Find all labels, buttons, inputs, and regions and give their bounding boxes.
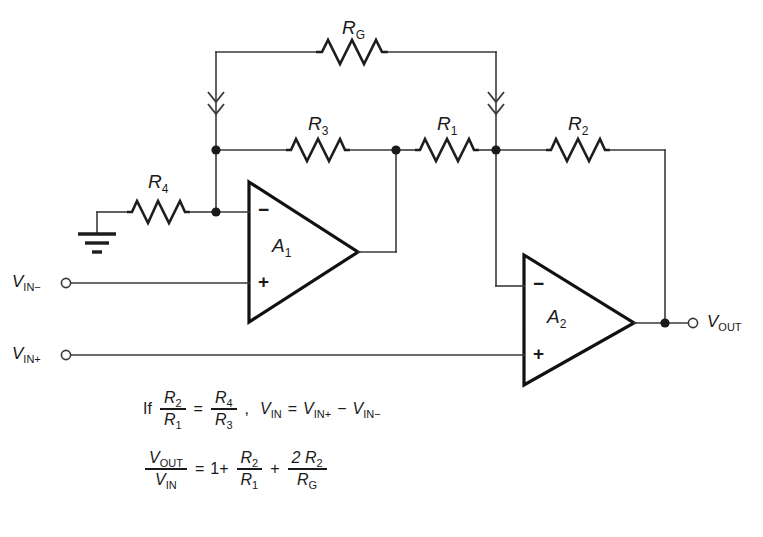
- equation-condition: If R2 R1 = R4 R3 , VIN = VIN+ − VIN−: [140, 386, 384, 432]
- den-sub: 1: [175, 419, 181, 431]
- node-dot-a1-summing-top: [211, 145, 220, 154]
- frac-r4-over-r3: R4 R3: [211, 388, 237, 430]
- resistor-label-rg: RG: [342, 18, 365, 37]
- a2-minus-sign: −: [533, 274, 544, 293]
- resistor-label-r2: R2: [568, 114, 588, 133]
- frac-r2-over-r1: R2 R1: [160, 388, 186, 430]
- a1-label-sub: 1: [285, 246, 292, 260]
- node-dot-a2-summing: [491, 145, 500, 154]
- resistor-label-r4: R4: [148, 172, 168, 191]
- r1-label-sub: 1: [451, 124, 458, 138]
- terminal-vin-minus[interactable]: [61, 278, 70, 287]
- den-main: R: [297, 471, 309, 488]
- vin-minus-sub: IN−: [23, 281, 40, 293]
- frac-numerator: R4: [211, 388, 237, 408]
- num-main: V: [149, 449, 160, 466]
- rg-label-sub: G: [356, 28, 365, 42]
- r3-label-main: R: [308, 113, 322, 134]
- frac-numerator: R2: [160, 388, 186, 408]
- den-sub: G: [309, 479, 318, 491]
- amplifier-label-a1: A1: [272, 236, 291, 255]
- resistor-label-r1: R1: [437, 114, 457, 133]
- r4-resistor-symbol: [127, 201, 190, 223]
- den-sub: IN: [166, 479, 177, 491]
- var-vin-minus: VIN−: [353, 400, 381, 418]
- den-sub: 1: [252, 479, 258, 491]
- frac-vout-over-vin: VOUT VIN: [145, 448, 187, 490]
- port-label-vin-minus: VIN−: [12, 273, 41, 290]
- a1-minus-sign: −: [258, 200, 269, 219]
- a2-plus-sign: +: [533, 344, 544, 363]
- var-vin: VIN: [260, 400, 282, 418]
- frac-2r2-over-rg: 2 R2 RG: [288, 448, 327, 490]
- a1-label-main: A: [272, 235, 285, 256]
- frac-denominator: RG: [293, 470, 321, 490]
- r2-label-sub: 2: [582, 124, 589, 138]
- num-main: R: [241, 449, 253, 466]
- vout-sub: OUT: [718, 321, 741, 333]
- rg-resistor-symbol: [316, 40, 388, 64]
- equals-sign-1: =: [194, 400, 203, 418]
- frac-r2-over-r1-gain: R2 R1: [237, 448, 263, 490]
- r3-resistor-symbol: [286, 139, 350, 161]
- a1-plus-sign: +: [258, 272, 269, 291]
- node-dot-a1-inverting: [211, 207, 220, 216]
- equation-gain: VOUT VIN = 1+ R2 R1 + 2 R2 RG: [140, 446, 384, 492]
- r2-label-main: R: [568, 113, 582, 134]
- frac-numerator: R2: [237, 448, 263, 468]
- terminal-vin-plus[interactable]: [61, 350, 70, 359]
- port-label-vout: VOUT: [707, 313, 742, 330]
- vin-minus-main: V: [12, 272, 23, 291]
- frac-numerator: VOUT: [145, 448, 187, 468]
- var-main: V: [303, 400, 314, 417]
- num-main: R: [164, 389, 176, 406]
- frac-numerator: 2 R2: [288, 448, 327, 468]
- amplifier-a1: [66, 150, 396, 322]
- r2-resistor-symbol: [546, 139, 610, 161]
- r1-resistor-symbol: [415, 139, 479, 161]
- minus-operator: −: [337, 400, 346, 418]
- var-main: V: [353, 400, 364, 417]
- rg-label-main: R: [342, 17, 356, 38]
- frac-denominator: R3: [211, 410, 237, 430]
- if-keyword: If: [143, 400, 152, 418]
- rg-branch: [208, 40, 504, 150]
- equation-block: If R2 R1 = R4 R3 , VIN = VIN+ − VIN− VOU…: [140, 386, 384, 492]
- var-sub: IN+: [314, 408, 331, 420]
- frac-denominator: R1: [237, 470, 263, 490]
- var-sub: IN−: [363, 408, 380, 420]
- num-main: R: [215, 389, 227, 406]
- terminal-vout[interactable]: [688, 318, 697, 327]
- num-main: 2 R: [292, 449, 317, 466]
- vin-plus-main: V: [12, 344, 23, 363]
- r1-label-main: R: [437, 113, 451, 134]
- circuit-schematic: RG R3 R1 R2 R4 A1 − + A2 − + VIN− VIN+ V…: [0, 0, 763, 537]
- one-plus-term: 1+: [210, 460, 228, 478]
- node-dot-a1-output: [391, 145, 400, 154]
- amplifier-label-a2: A2: [547, 307, 566, 326]
- den-main: R: [164, 411, 176, 428]
- r4-label-main: R: [148, 171, 162, 192]
- port-label-vin-plus: VIN+: [12, 345, 41, 362]
- equals-sign-3: =: [195, 460, 204, 478]
- equals-sign-2: =: [288, 400, 297, 418]
- var-main: V: [260, 400, 271, 417]
- var-sub: IN: [271, 408, 282, 420]
- comma-separator: ,: [245, 400, 249, 418]
- frac-denominator: VIN: [151, 470, 181, 490]
- var-vin-plus: VIN+: [303, 400, 331, 418]
- vin-plus-sub: IN+: [23, 353, 40, 365]
- plus-operator: +: [270, 460, 279, 478]
- r3-label-sub: 3: [322, 124, 329, 138]
- r4-branch: [78, 150, 216, 252]
- den-sub: 3: [226, 419, 232, 431]
- den-main: V: [155, 471, 166, 488]
- r4-label-sub: 4: [162, 182, 169, 196]
- frac-denominator: R1: [160, 410, 186, 430]
- node-dot-output: [660, 318, 669, 327]
- a2-label-sub: 2: [560, 317, 567, 331]
- resistor-label-r3: R3: [308, 114, 328, 133]
- den-main: R: [215, 411, 227, 428]
- a2-label-main: A: [547, 306, 560, 327]
- vout-main: V: [707, 312, 718, 331]
